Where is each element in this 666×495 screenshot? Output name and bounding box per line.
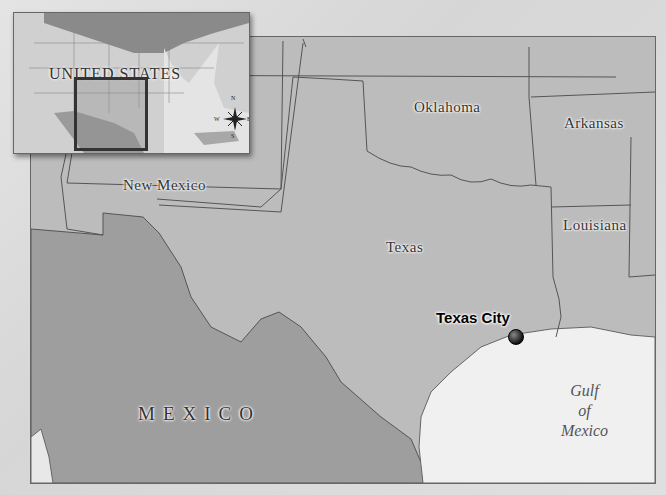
country-label-mexico: MEXICO — [138, 403, 261, 425]
compass-rose-icon — [219, 103, 250, 135]
state-label-arkansas: Arkansas — [564, 115, 624, 132]
compass-n: N — [231, 95, 235, 101]
gulf-line-2: of — [561, 401, 608, 421]
compass-s: S — [231, 133, 234, 139]
city-marker-icon[interactable] — [508, 329, 524, 345]
water-label-gulf-of-mexico: Gulf of Mexico — [561, 381, 608, 441]
gulf-line-1: Gulf — [561, 381, 608, 401]
inset-locator-box — [74, 77, 148, 151]
state-label-texas: Texas — [386, 239, 423, 256]
inset-map: UNITED STATES N S W E — [13, 12, 250, 154]
compass-e: E — [247, 116, 250, 122]
gulf-line-3: Mexico — [561, 421, 608, 441]
state-label-new-mexico: New Mexico — [123, 177, 206, 194]
compass-w: W — [214, 116, 220, 122]
city-label-texas-city: Texas City — [436, 309, 510, 326]
state-label-louisiana: Louisiana — [563, 217, 627, 234]
state-label-oklahoma: Oklahoma — [414, 99, 480, 116]
